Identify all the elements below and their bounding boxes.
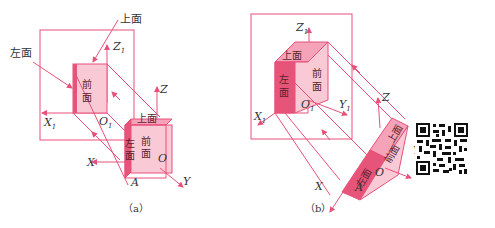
label-box-left-b-2: 面 <box>279 87 289 98</box>
label-x1-a: X1 <box>43 116 56 131</box>
caption-a: （a） <box>123 203 149 214</box>
label-y-a: Y <box>183 175 192 188</box>
label-top-face-callout: 上面 <box>120 13 142 26</box>
label-cube-left-a-2: 面 <box>125 150 135 161</box>
label-z1-a: Z1 <box>112 40 125 55</box>
label-box-top-b: 上面 <box>282 50 302 61</box>
label-z-a: Z <box>159 83 168 96</box>
label-cube-front-a-2: 面 <box>141 148 151 159</box>
label-cube-top-a: 上面 <box>137 113 157 124</box>
label-cube-left-a-1: 左 <box>125 137 135 149</box>
label-x1-b: X1 <box>253 110 266 125</box>
label-o-a: O <box>158 152 167 165</box>
qr-code <box>415 122 469 176</box>
label-x-a: X <box>86 156 96 169</box>
x-axis-b <box>330 192 343 212</box>
figure-b <box>251 14 411 212</box>
label-z1-b: Z1 <box>295 21 308 36</box>
diagram-canvas: 上面 左面 前 面 Z1 X1 O1 Z X Y O A 上面 左 面 前 面 … <box>0 0 495 228</box>
label-x-b: X <box>314 180 324 193</box>
label-y1-b: Y1 <box>339 98 351 113</box>
label-a-a: A <box>130 176 139 189</box>
label-o1-a: O1 <box>99 115 113 130</box>
label-a-b: A <box>354 181 363 194</box>
label-cube-front-a-1: 前 <box>141 135 151 147</box>
label-box-front-b-2: 面 <box>312 81 322 92</box>
label-projected-front-1: 前 <box>82 78 92 90</box>
label-left-face-callout: 左面 <box>10 47 32 60</box>
z-axis-b <box>378 98 380 128</box>
label-box-left-b-1: 左 <box>279 73 289 85</box>
callout-line-left <box>33 62 72 88</box>
label-o-b: O <box>375 166 384 179</box>
caption-b: （b） <box>305 203 331 214</box>
label-z-b: Z <box>381 91 390 104</box>
label-box-front-b-1: 前 <box>312 67 322 79</box>
label-projected-front-2: 面 <box>82 92 92 103</box>
